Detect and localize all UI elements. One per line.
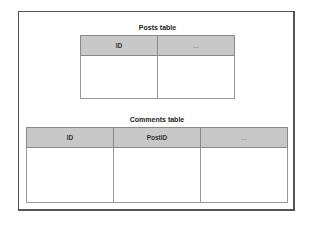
comments-cell [201,148,288,203]
posts-cell [81,56,158,99]
comments-cell [114,148,201,203]
comments-column-postid: PostID [114,128,201,148]
posts-table: ID ... [80,35,235,99]
comments-column-id: ID [27,128,114,148]
posts-table-title: Posts table [80,24,235,31]
comments-column-more: ... [201,128,288,148]
comments-table-title: Comments table [26,116,288,123]
comments-table: ID PostID ... [26,127,288,203]
posts-column-more: ... [158,36,235,56]
comments-cell [27,148,114,203]
posts-column-id: ID [81,36,158,56]
posts-cell [158,56,235,99]
